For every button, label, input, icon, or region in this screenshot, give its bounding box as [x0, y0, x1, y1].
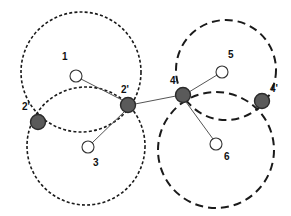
graph-node-n4prime[interactable]: [255, 94, 270, 109]
node-label-n6: 6: [224, 152, 230, 162]
nodes-layer: [31, 66, 270, 153]
graph-node-n2prime_r[interactable]: [121, 98, 136, 113]
graph-node-n2prime_l[interactable]: [31, 115, 46, 130]
edges-layer: [81, 75, 217, 143]
graph-node-n6[interactable]: [210, 138, 222, 150]
node-label-n5: 5: [228, 50, 234, 60]
edge-n2prime_r-to-n4: [135, 96, 176, 104]
circles-layer: [21, 12, 276, 208]
graph-node-n1[interactable]: [70, 70, 82, 82]
diagram-canvas: 12'2'34564': [0, 0, 291, 216]
node-label-n4prime: 4': [270, 84, 278, 94]
node-label-n2prime_r: 2': [121, 85, 129, 95]
graph-node-n3[interactable]: [82, 141, 94, 153]
edge-n4-to-n6: [186, 102, 213, 139]
edge-n4-to-n5: [189, 75, 217, 92]
graph-node-n5[interactable]: [216, 66, 228, 78]
edge-n3-to-n2prime_r: [92, 111, 125, 143]
graph-node-n4[interactable]: [176, 88, 191, 103]
node-label-n3: 3: [93, 158, 99, 168]
edge-n1-to-n2prime_r: [81, 79, 124, 101]
node-label-n4: 4: [170, 76, 176, 86]
node-label-n2prime_l: 2': [22, 102, 30, 112]
graph-diagram: [0, 0, 291, 216]
node-label-n1: 1: [62, 52, 68, 62]
